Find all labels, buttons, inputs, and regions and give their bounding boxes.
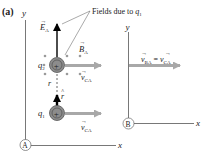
charge-q1: + xyxy=(50,106,65,121)
charge-q2: + xyxy=(50,58,65,73)
b-vector-accent-icon: → xyxy=(80,39,86,45)
v-ba-vector-accent-icon: → xyxy=(141,50,147,56)
charge-q1-label: q1 xyxy=(38,108,45,119)
separation-r-label: r xyxy=(48,79,52,88)
plus-icon: + xyxy=(54,109,59,119)
e-vector-accent-icon: → xyxy=(41,18,47,24)
frame-a-y-label: y xyxy=(21,8,26,18)
frame-b-origin-label: B xyxy=(126,120,131,129)
v-ba-label: vBA=vCA xyxy=(141,55,171,65)
fields-annotation: Fields due to q1 xyxy=(92,7,142,17)
v-ca-q1-accent-icon: → xyxy=(81,118,87,124)
frame-a-origin-label: A xyxy=(22,141,28,150)
b-field-label: BA xyxy=(79,44,88,55)
e-field-label: EA xyxy=(39,22,49,33)
diagram-stage: (a) y x A y x B vBA=vCA → → EA → BA → xyxy=(0,0,207,160)
frame-a-x-label: x xyxy=(117,140,122,150)
v-ca-vector-accent-icon: → xyxy=(165,50,171,56)
frame-b-x-label: x xyxy=(195,118,200,128)
annotation-leader-e xyxy=(62,11,90,24)
charge-q2-label: q2 xyxy=(38,60,45,71)
v-ca-label-q2: vCA xyxy=(81,73,92,83)
annotation-leader-b xyxy=(65,11,90,55)
frame-b: y x B vBA=vCA → → xyxy=(123,22,200,129)
frame-a: y x A xyxy=(20,8,122,151)
v-ca-q2-accent-icon: → xyxy=(81,68,87,74)
frame-b-y-label: y xyxy=(125,22,130,32)
v-ca-label-q1: vCA xyxy=(81,123,92,133)
plus-icon: + xyxy=(54,61,59,71)
panel-label: (a) xyxy=(2,6,14,18)
r-hat-accent-icon: ^ xyxy=(61,88,64,94)
moving-charges-diagram: (a) y x A y x B vBA=vCA → → EA → BA → xyxy=(0,0,207,160)
